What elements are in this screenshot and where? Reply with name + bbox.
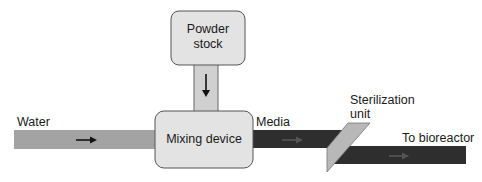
media-label: Media bbox=[256, 115, 290, 129]
powder-stock-line2: stock bbox=[171, 37, 245, 52]
sterilization-line1: Sterilization bbox=[350, 93, 415, 107]
mixing-device-label: Mixing device bbox=[155, 132, 253, 147]
bioreactor-pipe bbox=[330, 146, 466, 164]
water-label: Water bbox=[17, 115, 50, 129]
powder-stock-line1: Powder bbox=[171, 22, 245, 37]
sterilization-line2: unit bbox=[350, 107, 415, 121]
to-bioreactor-label: To bioreactor bbox=[402, 131, 474, 145]
powder-stock-label: Powder stock bbox=[171, 22, 245, 52]
sterilization-unit-label: Sterilization unit bbox=[350, 93, 415, 121]
